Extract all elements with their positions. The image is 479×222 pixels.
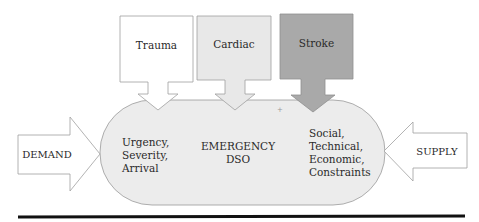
bottom-divider [18, 216, 465, 217]
trauma-callout-shape [120, 16, 193, 110]
demand-factor-1: Urgency, [122, 136, 169, 148]
cardiac-callout-shape [197, 16, 271, 110]
supply-factor-2: Technical, [309, 140, 363, 152]
supply-label: SUPPLY [416, 146, 458, 157]
trauma-label: Trauma [136, 39, 177, 51]
supply-arrow: SUPPLY [384, 122, 467, 181]
supply-factor-4: Constraints [309, 166, 371, 178]
diagram-canvas: Trauma Cardiac Stroke + DEMAND SUPPLY Ur… [0, 0, 479, 222]
cardiac-label: Cardiac [213, 38, 255, 50]
cardiac-callout: Cardiac [197, 16, 271, 110]
stroke-label: Stroke [299, 37, 334, 49]
center-title-line2: DSO [226, 153, 251, 165]
plus-mark-icon: + [277, 106, 283, 114]
demand-arrow: DEMAND [18, 117, 100, 191]
supply-factor-3: Economic, [309, 153, 364, 165]
center-title-line1: EMERGENCY [201, 140, 276, 152]
trauma-callout: Trauma [120, 16, 193, 110]
stroke-callout: Stroke [280, 14, 353, 112]
demand-label: DEMAND [22, 149, 72, 160]
stroke-callout-shape [280, 14, 353, 112]
demand-factor-2: Severity, [122, 149, 168, 161]
supply-factor-1: Social, [309, 127, 345, 139]
demand-factor-3: Arrival [121, 162, 159, 174]
